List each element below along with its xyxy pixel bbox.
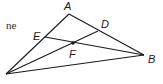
point-f-dot [71, 41, 75, 45]
text-fragment: ne [6, 19, 17, 31]
label-a: A [63, 0, 71, 12]
segment-eb [45, 37, 144, 55]
triangle-diagram: ne A D E F B [0, 0, 163, 84]
label-f: F [69, 48, 77, 60]
label-e: E [33, 30, 41, 42]
label-b: B [148, 53, 155, 65]
label-d: D [101, 18, 109, 30]
